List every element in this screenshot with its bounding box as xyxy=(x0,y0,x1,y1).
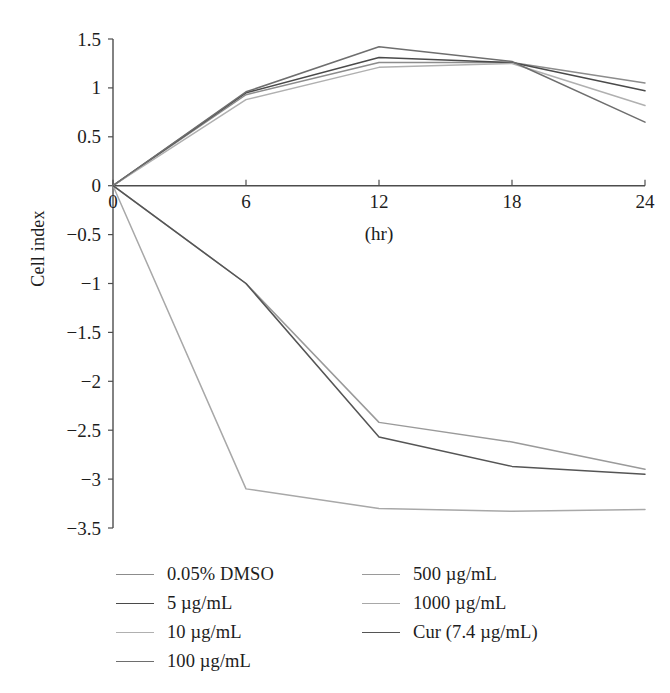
series-line xyxy=(113,58,645,186)
series-line xyxy=(113,63,645,185)
legend-item-label: 5 µg/mL xyxy=(167,593,232,614)
legend-item-label: 0.05% DMSO xyxy=(167,564,274,585)
y-tick-label: −1 xyxy=(81,273,101,294)
x-tick-label: 24 xyxy=(636,191,656,212)
legend-item[interactable]: 1000 µg/mL xyxy=(362,589,538,618)
tick-labels-group: 1.510.50−0.5−1−1.5−2−2.5−3−3.506121824 xyxy=(67,29,655,539)
figure-container: 1.510.50−0.5−1−1.5−2−2.5−3−3.506121824 (… xyxy=(0,0,670,693)
axes-group xyxy=(113,39,645,528)
y-tick-label: −1.5 xyxy=(67,322,101,343)
legend-item-label: 10 µg/mL xyxy=(167,622,242,643)
legend-line-swatch xyxy=(116,574,154,575)
legend-column-right: 500 µg/mL1000 µg/mLCur (7.4 µg/mL) xyxy=(362,560,538,647)
legend-line-swatch xyxy=(362,574,400,575)
legend-column-left: 0.05% DMSO5 µg/mL10 µg/mL100 µg/mL xyxy=(116,560,274,676)
x-axis-title: (hr) xyxy=(365,223,393,245)
legend-item[interactable]: 5 µg/mL xyxy=(116,589,274,618)
legend-line-swatch xyxy=(116,661,154,662)
y-tick-label: −2.5 xyxy=(67,420,101,441)
y-axis-title: Cell index xyxy=(28,184,49,314)
x-tick-label: 6 xyxy=(241,191,251,212)
y-tick-label: 1.5 xyxy=(77,29,101,50)
legend-item[interactable]: 500 µg/mL xyxy=(362,560,538,589)
line-chart-plot: 1.510.50−0.5−1−1.5−2−2.5−3−3.506121824 (… xyxy=(0,0,670,556)
y-tick-label: −3.5 xyxy=(67,518,101,539)
x-tick-label: 12 xyxy=(370,191,389,212)
x-tick-label: 18 xyxy=(503,191,522,212)
legend-item[interactable]: Cur (7.4 µg/mL) xyxy=(362,618,538,647)
legend-line-swatch xyxy=(362,603,400,604)
legend-item[interactable]: 10 µg/mL xyxy=(116,618,274,647)
y-tick-label: −0.5 xyxy=(67,224,101,245)
y-tick-label: 1 xyxy=(92,77,102,98)
legend-item-label: 100 µg/mL xyxy=(167,651,251,672)
legend-item-label: 500 µg/mL xyxy=(413,564,497,585)
legend-item-label: Cur (7.4 µg/mL) xyxy=(413,622,538,643)
y-tick-label: −2 xyxy=(81,371,101,392)
tick-marks-group xyxy=(108,39,645,528)
legend-line-swatch xyxy=(116,603,154,604)
y-tick-label: −3 xyxy=(81,469,101,490)
legend-item[interactable]: 100 µg/mL xyxy=(116,647,274,676)
legend-line-swatch xyxy=(116,632,154,633)
chart-legend: 0.05% DMSO5 µg/mL10 µg/mL100 µg/mL 500 µ… xyxy=(0,556,670,693)
legend-item-label: 1000 µg/mL xyxy=(413,593,506,614)
legend-item[interactable]: 0.05% DMSO xyxy=(116,560,274,589)
y-tick-label: 0.5 xyxy=(77,126,101,147)
data-series-group xyxy=(113,47,645,512)
y-tick-label: 0 xyxy=(92,175,102,196)
legend-line-swatch xyxy=(362,632,400,633)
